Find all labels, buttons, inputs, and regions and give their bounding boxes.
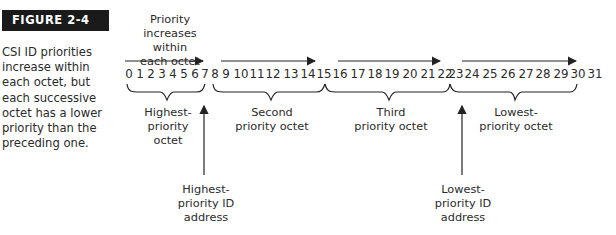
- octet-label-highest: Highest- priority octet: [132, 106, 204, 148]
- id-number: 28: [535, 67, 550, 81]
- id-number: 19: [384, 67, 399, 81]
- octet-label-third: Third priority octet: [351, 106, 431, 134]
- octet-label-lowest: Lowest- priority octet: [476, 106, 556, 134]
- brace-third-octet: [325, 84, 450, 100]
- label-line: address: [433, 211, 493, 225]
- id-number: 16: [332, 67, 347, 81]
- brace-second-octet: [213, 84, 325, 100]
- label-line: priority octet: [476, 120, 556, 134]
- octet-label-second: Second priority octet: [232, 106, 312, 134]
- pointer-label-lowest-id: Lowest- priority ID address: [433, 183, 493, 225]
- id-number: 23: [448, 67, 463, 81]
- id-number: 31: [587, 67, 602, 81]
- id-number: 1: [136, 67, 144, 81]
- label-line: Highest-: [176, 183, 236, 197]
- label-line: priority ID: [433, 197, 493, 211]
- id-number: 11: [249, 67, 264, 81]
- id-number: 13: [283, 67, 298, 81]
- label-line: Lowest-: [476, 106, 556, 120]
- brace-lowest-octet: [450, 84, 577, 100]
- label-line: Second: [232, 106, 312, 120]
- id-number: 9: [222, 67, 230, 81]
- label-line: priority octet: [132, 120, 204, 148]
- label-line: priority octet: [232, 120, 312, 134]
- id-number: 30: [570, 67, 585, 81]
- label-line: priority ID: [176, 197, 236, 211]
- id-number: 3: [158, 67, 166, 81]
- id-number: 4: [169, 67, 177, 81]
- id-number: 6: [191, 67, 199, 81]
- id-number: 10: [233, 67, 248, 81]
- id-number: 8: [211, 67, 219, 81]
- id-number: 7: [201, 67, 209, 81]
- label-line: address: [176, 211, 236, 225]
- id-number: 15: [316, 67, 331, 81]
- id-number: 29: [553, 67, 568, 81]
- id-number: 2: [147, 67, 155, 81]
- pointer-label-highest-id: Highest- priority ID address: [176, 183, 236, 225]
- label-line: Lowest-: [433, 183, 493, 197]
- id-number: 0: [125, 67, 133, 81]
- label-line: priority octet: [351, 120, 431, 134]
- id-number: 12: [265, 67, 280, 81]
- label-line: Third: [351, 106, 431, 120]
- id-number: 21: [420, 67, 435, 81]
- id-number: 20: [402, 67, 417, 81]
- id-number: 18: [367, 67, 382, 81]
- id-number: 5: [180, 67, 188, 81]
- id-number: 24: [464, 67, 479, 81]
- id-number: 26: [500, 67, 515, 81]
- brace-highest-octet: [127, 84, 205, 100]
- label-line: Highest-: [132, 106, 204, 120]
- id-number: 17: [350, 67, 365, 81]
- id-number: 14: [300, 67, 315, 81]
- id-number: 27: [518, 67, 533, 81]
- id-number: 25: [482, 67, 497, 81]
